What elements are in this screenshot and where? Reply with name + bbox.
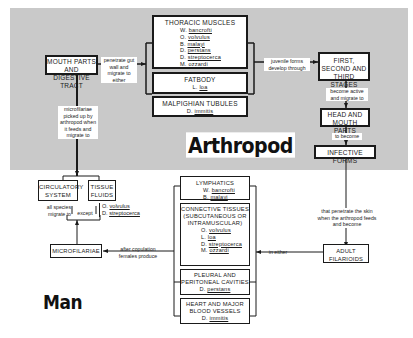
species-item: L. loa (154, 84, 246, 91)
node-title: HEART AND MAJOR BLOOD VESSELS (181, 301, 249, 315)
edge-label-except: except (74, 210, 96, 217)
edge-label-in-either: in either (264, 249, 292, 256)
arthropod-title: Arthropod (186, 132, 295, 157)
node-adult-filarioids: ADULT FILARIOIDS (323, 244, 369, 263)
species-item: W. bancrofti (180, 27, 242, 34)
species-item: O. volvulus (102, 203, 140, 210)
node-title: MALPIGHIAN TUBULES (154, 100, 246, 108)
node-label: CIRCULATORY SYSTEM (39, 184, 84, 198)
edge-label-penetrate: penetrate gut wall and migrate to either (101, 57, 137, 83)
node-title: THORACIC MUSCLES (158, 19, 242, 27)
node-mouth-parts: MOUTH PARTS AND DIGESTIVE TRACT (45, 55, 98, 75)
node-circulatory-system: CIRCULATORY SYSTEM (38, 180, 78, 201)
node-tissue-fluids: TISSUE FLUIDS (88, 180, 116, 201)
species-item: D. perstans (181, 286, 249, 293)
node-head-mouth-parts: HEAD AND MOUTH PARTS (320, 108, 370, 127)
species-item: M. ozzardi (201, 247, 249, 254)
node-title: CONNECTIVE TISSUES (SUBCUTANEOUS OR INTR… (181, 206, 249, 227)
species-item: D. streptocerca (102, 210, 140, 217)
edge-label-to-become: to become (332, 133, 362, 140)
species-item: L. loa (201, 234, 249, 241)
edge-label-microfilariae-picked: microfilariae picked up by arthropod whe… (58, 106, 98, 139)
node-title: LYMPHATICS (181, 179, 249, 187)
node-thoracic-muscles: THORACIC MUSCLES W. bancrofti O. volvulu… (152, 15, 248, 69)
node-label: MICROFILARIAE (52, 248, 100, 254)
except-species-list: O. volvulus D. streptocerca (99, 203, 140, 217)
node-infective-forms: INFECTIVE FORMS (314, 145, 376, 159)
species-item: B. malayi (180, 41, 242, 48)
edge-label-juvenile: juvenile forms develop through (264, 58, 310, 71)
node-heart-blood-vessels: HEART AND MAJOR BLOOD VESSELS D. immitis (180, 298, 250, 324)
node-title: PLEURAL AND PERITONEAL CAVITIES (181, 272, 249, 286)
node-fatbody: FATBODY L. loa (152, 72, 248, 94)
species-item: M. ozzardi (180, 61, 242, 68)
edge-label-after-copulation: after copulation females produce (113, 246, 163, 259)
species-item: O. volvulus (201, 227, 249, 234)
species-item: B. malayi (203, 194, 249, 201)
node-connective-tissues: CONNECTIVE TISSUES (SUBCUTANEOUS OR INTR… (180, 203, 250, 266)
species-item: D. streptocerca (180, 54, 242, 61)
species-item: W. bancrofti (203, 187, 249, 194)
edge-label-all-species: all species migrate to (38, 204, 72, 217)
man-title: Man (43, 291, 82, 314)
edge-label-become-active: become active and migrate to (326, 88, 368, 101)
node-label: ADULT FILARIOIDS (329, 248, 363, 262)
node-pleural-cavities: PLEURAL AND PERITONEAL CAVITIES D. perst… (180, 269, 250, 295)
node-lymphatics: LYMPHATICS W. bancrofti B. malayi (180, 176, 250, 200)
species-item: D. immitis (154, 108, 246, 115)
species-item: D. immitis (181, 315, 249, 322)
species-item: O. volvulus (180, 34, 242, 41)
node-stages: FIRST, SECOND AND THIRD STAGES (318, 52, 370, 81)
species-item: D. perstans (180, 47, 242, 54)
node-microfilariae: MICROFILARIAE (50, 244, 102, 258)
node-label: TISSUE FLUIDS (91, 184, 114, 198)
edge-label-penetrate-skin: that penetrate the skin when the arthrop… (314, 208, 380, 228)
node-malpighian-tubules: MALPIGHIAN TUBULES D. immitis (152, 96, 248, 117)
species-item: D. streptocerca (201, 241, 249, 248)
node-title: FATBODY (154, 76, 246, 84)
